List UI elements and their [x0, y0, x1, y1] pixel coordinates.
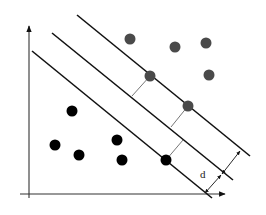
svm-margin-diagram: d: [0, 0, 266, 215]
upper-margin-line: [77, 15, 250, 156]
class-b-point: [112, 135, 123, 146]
class-b-point: [50, 140, 61, 151]
margin-arrow-lower: [205, 175, 221, 193]
lower-margin-line: [32, 51, 212, 198]
class-a-point: [201, 38, 212, 49]
margin-label: d: [200, 168, 206, 180]
support-vector-b: [161, 155, 172, 166]
class-a-points: [125, 34, 215, 112]
class-b-point: [74, 150, 85, 161]
support-vector-a: [145, 71, 156, 82]
class-a-point: [125, 34, 136, 45]
class-b-point: [67, 106, 78, 117]
class-b-point: [117, 155, 128, 166]
class-a-point: [204, 70, 215, 81]
class-a-point: [170, 42, 181, 53]
margin-arrow-upper: [222, 151, 240, 174]
support-vector-a: [183, 101, 194, 112]
